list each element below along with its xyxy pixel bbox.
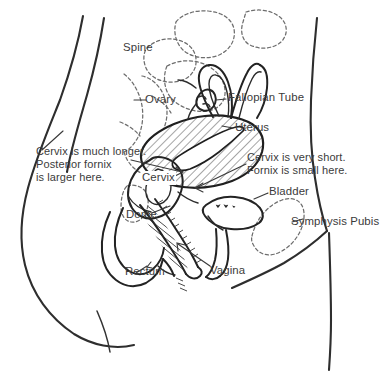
label-dome: Dome bbox=[126, 208, 157, 222]
annotation-right-line-1: Cervix is very short. bbox=[247, 151, 346, 164]
label-ovary: Ovary bbox=[145, 93, 176, 107]
label-fallopian-tube: Fallopian Tube bbox=[228, 91, 304, 105]
label-uterus: Uterus bbox=[235, 121, 269, 135]
label-cervix: Cervix bbox=[141, 171, 176, 185]
annotation-left-line-1: Cervix is much longer. bbox=[36, 145, 146, 158]
label-bladder: Bladder bbox=[269, 185, 309, 199]
annotation-left-line-3: is larger here. bbox=[36, 171, 105, 184]
label-spine: Spine bbox=[123, 41, 153, 55]
label-vagina: Vagina bbox=[210, 264, 245, 278]
anatomy-illustration bbox=[0, 0, 384, 383]
perineal-hatching bbox=[176, 278, 187, 291]
anatomy-diagram: Spine Ovary Fallopian Tube Uterus Cervix… bbox=[0, 0, 384, 383]
label-symphysis-pubis: Symphysis Pubis bbox=[291, 215, 379, 229]
annotation-right-line-2: Fornix is small here. bbox=[247, 164, 348, 177]
label-rectum: Rectum bbox=[125, 265, 165, 279]
annotation-left-line-2: Posterior fornix bbox=[36, 158, 112, 171]
